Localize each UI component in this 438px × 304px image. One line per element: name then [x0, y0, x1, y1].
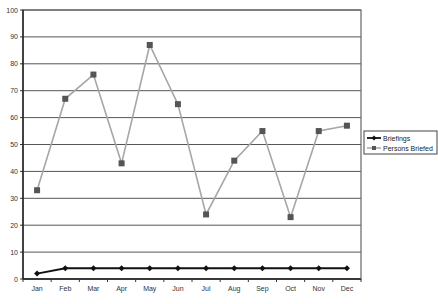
- series-line-persons-briefed: [37, 45, 347, 217]
- x-axis: JanFebMarAprMayJunJulAugSepOctNovDec: [23, 279, 361, 293]
- x-tick-label: Feb: [59, 285, 71, 292]
- y-tick-label: 0: [14, 276, 18, 283]
- data-point-marker: [344, 123, 350, 129]
- line-chart: 0102030405060708090100 JanFebMarAprMayJu…: [0, 0, 438, 304]
- y-tick-label: 90: [10, 33, 18, 40]
- data-point-marker: [288, 214, 294, 220]
- data-point-marker: [147, 42, 153, 48]
- data-point-marker: [175, 265, 181, 271]
- x-tick-label: Dec: [341, 285, 354, 292]
- legend: BriefingsPersons Briefed: [364, 131, 437, 154]
- data-point-marker: [316, 128, 322, 134]
- y-tick-label: 30: [10, 195, 18, 202]
- data-point-marker: [344, 265, 350, 271]
- y-tick-label: 40: [10, 168, 18, 175]
- data-point-marker: [90, 72, 96, 78]
- data-point-marker: [316, 265, 322, 271]
- data-point-marker: [119, 265, 125, 271]
- x-tick-label: Nov: [313, 285, 326, 292]
- y-tick-label: 100: [6, 7, 18, 14]
- data-point-marker: [259, 128, 265, 134]
- data-point-marker: [203, 211, 209, 217]
- gridlines: [23, 10, 361, 279]
- y-tick-label: 70: [10, 87, 18, 94]
- data-point-marker: [147, 265, 153, 271]
- data-point-marker: [259, 265, 265, 271]
- x-tick-label: Aug: [228, 285, 241, 293]
- data-point-marker: [34, 271, 40, 277]
- data-point-marker: [231, 265, 237, 271]
- data-point-marker: [203, 265, 209, 271]
- y-tick-label: 20: [10, 222, 18, 229]
- legend-label: Briefings: [383, 135, 411, 143]
- data-point-marker: [119, 160, 125, 166]
- x-tick-label: Oct: [285, 285, 296, 292]
- y-tick-label: 60: [10, 114, 18, 121]
- data-point-marker: [90, 265, 96, 271]
- y-tick-label: 80: [10, 60, 18, 67]
- x-tick-label: Jul: [202, 285, 211, 292]
- x-tick-label: Apr: [116, 285, 128, 293]
- series-lines: [34, 42, 350, 277]
- y-tick-label: 50: [10, 141, 18, 148]
- x-tick-label: May: [143, 285, 157, 293]
- data-point-marker: [175, 101, 181, 107]
- legend-marker-icon: [372, 146, 376, 150]
- series-line-briefings: [37, 268, 347, 273]
- data-point-marker: [62, 96, 68, 102]
- data-point-marker: [231, 158, 237, 164]
- x-tick-label: Jun: [172, 285, 183, 292]
- x-tick-label: Mar: [87, 285, 100, 292]
- x-tick-label: Sep: [256, 285, 269, 293]
- data-point-marker: [288, 265, 294, 271]
- y-tick-label: 10: [10, 249, 18, 256]
- x-tick-label: Jan: [31, 285, 42, 292]
- legend-label: Persons Briefed: [383, 145, 433, 152]
- data-point-marker: [62, 265, 68, 271]
- data-point-marker: [34, 187, 40, 193]
- y-axis: 0102030405060708090100: [6, 7, 23, 283]
